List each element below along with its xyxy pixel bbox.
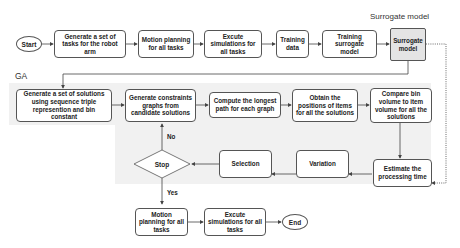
longest-path-box: Compute the longest path for each graph	[209, 92, 281, 118]
surrogate-model-box: Surrogate model	[390, 28, 426, 61]
selection-label: Selection	[232, 160, 260, 168]
final-motion-planning-label: Motion planning for all tasks	[138, 211, 185, 234]
training-data-label: Training data	[279, 36, 306, 51]
generate-graphs-box: Generate constraints graphs from candida…	[125, 89, 196, 122]
generate-tasks-box: Generate a set of tasks for the robot ar…	[54, 30, 126, 58]
estimate-time-box: Estimate the processing time	[373, 159, 432, 187]
selection-box: Selection	[219, 150, 272, 178]
training-surrogate-label: Training surrogate model	[325, 33, 374, 56]
estimate-time-label: Estimate the processing time	[376, 165, 429, 180]
compare-volume-label: Compare bin volume to item volume for al…	[373, 90, 429, 120]
stop-label: Stop	[134, 158, 190, 170]
no-branch-label: No	[167, 133, 175, 140]
obtain-positions-label: Obtain the positions of items for all th…	[295, 94, 355, 117]
obtain-positions-box: Obtain the positions of items for all th…	[292, 89, 358, 122]
motion-planning-box: Motion planning for all tasks	[138, 30, 194, 58]
end-node: End	[282, 214, 308, 230]
training-data-box: Training data	[276, 30, 309, 58]
generate-tasks-label: Generate a set of tasks for the robot ar…	[57, 33, 123, 56]
final-execute-simulations-label: Excute simulations for all tasks	[207, 211, 263, 234]
start-label: Start	[22, 41, 37, 48]
execute-simulations-label: Excute simulations for all tasks	[207, 33, 259, 56]
variation-box: Variation	[296, 150, 349, 178]
variation-label: Variation	[309, 160, 336, 168]
execute-simulations-box: Excute simulations for all tasks	[204, 30, 262, 58]
end-label: End	[289, 219, 301, 226]
generate-solutions-box: Generate a set of solutions using sequen…	[16, 89, 112, 122]
longest-path-label: Compute the longest path for each graph	[212, 97, 278, 112]
final-motion-planning-box: Motion planning for all tasks	[135, 208, 188, 236]
motion-planning-label: Motion planning for all tasks	[141, 36, 191, 51]
generate-solutions-label: Generate a set of solutions using sequen…	[19, 90, 109, 120]
compare-volume-box: Compare bin volume to item volume for al…	[370, 88, 432, 123]
training-surrogate-box: Training surrogate model	[322, 30, 377, 58]
surrogate-model-label: Surrogate model	[393, 37, 423, 52]
start-node: Start	[16, 36, 42, 52]
yes-branch-label: Yes	[167, 189, 178, 196]
generate-graphs-label: Generate constraints graphs from candida…	[128, 94, 193, 117]
final-execute-simulations-box: Excute simulations for all tasks	[204, 208, 266, 236]
